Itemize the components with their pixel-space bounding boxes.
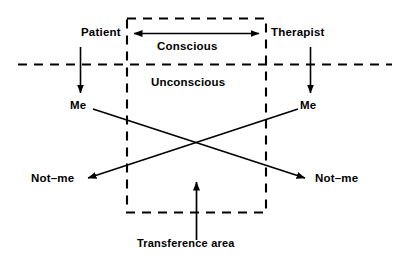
label-me-therapist: Me (300, 100, 316, 112)
label-patient: Patient (81, 27, 121, 39)
label-therapist: Therapist (271, 27, 325, 39)
label-not-me-patient: Not–me (31, 173, 74, 185)
label-not-me-therapist: Not–me (315, 173, 358, 185)
transference-diagram: Patient Therapist Conscious Unconscious … (0, 0, 408, 263)
cross-arrow-patient-me-to-notme (93, 109, 305, 178)
label-transference-area: Transference area (137, 238, 235, 249)
label-conscious: Conscious (157, 41, 218, 53)
label-unconscious: Unconscious (151, 77, 225, 89)
label-me-patient: Me (70, 100, 86, 112)
